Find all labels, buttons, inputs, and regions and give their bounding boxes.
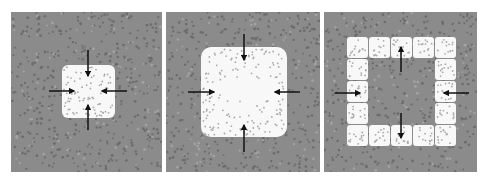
panel-2-canvas [166, 12, 320, 172]
panel-1-canvas [11, 12, 162, 172]
panel-3 [324, 12, 477, 172]
panel-2 [166, 12, 320, 172]
panel-3-canvas [324, 12, 477, 172]
panel-1 [11, 12, 162, 172]
